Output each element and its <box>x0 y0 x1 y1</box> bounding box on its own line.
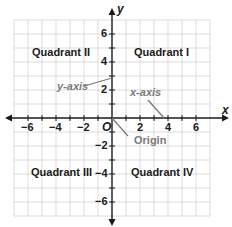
x-tick-label: 6 <box>193 121 199 133</box>
quadrant-1-label: Quadrant I <box>134 46 189 58</box>
x-tick-label: 2 <box>137 121 143 133</box>
y-axis <box>109 8 116 226</box>
y-tick-label: 2 <box>101 83 107 95</box>
x-axis-leader <box>148 100 164 118</box>
x-tick-label: −4 <box>49 121 62 133</box>
y-tick-label: −2 <box>95 139 108 151</box>
origin-label: O <box>102 120 111 134</box>
y-tick-label: −6 <box>95 195 108 207</box>
x-tick-label: −6 <box>21 121 34 133</box>
y-tick-label: 4 <box>101 55 107 67</box>
quadrant-3-label: Quadrant III <box>31 166 92 178</box>
x-axis-annotation: x-axis <box>130 86 161 98</box>
coordinate-plane-graphic <box>0 0 232 227</box>
origin-annotation: Origin <box>134 134 166 146</box>
y-tick-label: −4 <box>95 167 108 179</box>
coordinate-plane: y x O −6 −4 −2 2 4 6 6 4 2 −2 −4 −6 Quad… <box>0 0 232 227</box>
x-axis-label: x <box>222 103 229 117</box>
x-tick-label: 4 <box>165 121 171 133</box>
y-axis-annotation: y-axis <box>57 80 88 92</box>
x-tick-label: −2 <box>77 121 90 133</box>
y-axis-annotation-text: y-axis <box>57 80 88 92</box>
quadrant-4-label: Quadrant IV <box>131 166 193 178</box>
x-axis-annotation-text: x-axis <box>130 86 161 98</box>
y-tick-label: 6 <box>101 27 107 39</box>
y-axis-label: y <box>117 2 124 16</box>
quadrant-2-label: Quadrant II <box>32 46 90 58</box>
